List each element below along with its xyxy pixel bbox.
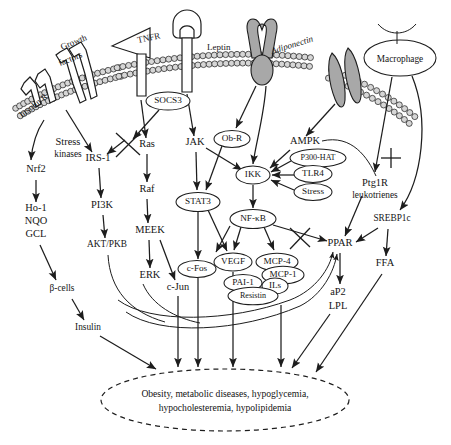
node-ppar[interactable]: PPAR: [327, 237, 352, 248]
node-label-mcp4: MCP-4: [263, 256, 290, 266]
membrane-lipid: [211, 52, 217, 58]
membrane-lipid: [285, 53, 291, 59]
node-label-ikk: IKK: [245, 169, 262, 179]
node-label-ras: Ras: [139, 138, 155, 149]
outcome-line-2: hypocholesteremia, hypolipidemia: [159, 402, 292, 413]
arrow-macrophage-srebp1c: [400, 76, 422, 210]
node-jak[interactable]: JAK: [185, 136, 205, 147]
node-label-srebp1c: SREBP1c: [373, 213, 410, 223]
node-meek[interactable]: MEEK: [135, 224, 165, 235]
node-ffa[interactable]: FFA: [376, 257, 395, 268]
node-label-stress-ox: Stress: [302, 186, 324, 196]
node-pi3k[interactable]: PI3K: [91, 199, 113, 210]
node-label-raf: Raf: [139, 183, 155, 194]
node-ampk[interactable]: AMPK: [290, 135, 321, 146]
node-socs3[interactable]: SOCS3: [146, 92, 190, 110]
arrow-leptin-obr: [236, 86, 256, 128]
ellipse-node-group: SOCS3Ob-RSTAT3IKKP300-HATTLR4StressNF-κB…: [146, 92, 346, 305]
membrane-lipid: [391, 98, 397, 104]
node-ho1[interactable]: Ho-1: [25, 202, 46, 213]
node-ptg1r[interactable]: Ptg1Rleukotrienes: [352, 177, 398, 200]
node-raf[interactable]: Raf: [139, 183, 155, 194]
membrane-lipid: [122, 72, 128, 78]
node-label-nfkb: NF-κB: [240, 213, 266, 223]
node-nqo[interactable]: NQO: [25, 215, 48, 226]
membrane-lipid: [229, 60, 235, 66]
membrane-lipid: [381, 102, 387, 108]
node-label-pi3k: PI3K: [91, 199, 113, 210]
membrane-lipid: [407, 110, 413, 116]
leptin-receptor[interactable]: [173, 10, 201, 92]
node-vegf[interactable]: VEGF: [214, 253, 252, 271]
membrane-lipid: [240, 60, 246, 66]
arrow-nfkb-left: [216, 226, 230, 252]
node-label-aktpkb: AKT/PKB: [87, 239, 127, 249]
node-label-jak: JAK: [185, 136, 205, 147]
node-label-irs1: IRS-1: [86, 152, 111, 163]
node-nrf2[interactable]: Nrf2: [26, 163, 46, 174]
node-srebp1c[interactable]: SREBP1c: [373, 213, 410, 223]
membrane-lipid: [206, 61, 212, 67]
node-label-cfos: c-Fos: [187, 263, 208, 273]
node-aktpkb[interactable]: AKT/PKB: [87, 239, 127, 249]
membrane-lipid: [223, 60, 229, 66]
arrow-meek-cjun: [160, 240, 175, 280]
node-ras[interactable]: Ras: [139, 138, 155, 149]
leptin-label: Leptin: [207, 42, 231, 52]
membrane-lipid: [195, 62, 201, 68]
membrane-lipid: [155, 66, 161, 72]
membrane-lipid: [290, 62, 296, 68]
node-label-nrf2: Nrf2: [26, 163, 46, 174]
macrophage-label: Macrophage: [377, 54, 423, 64]
membrane-lipid: [406, 120, 412, 126]
node-ap2[interactable]: aP2: [330, 286, 346, 297]
node-ikk[interactable]: IKK: [236, 166, 270, 184]
node-label-pai1: PAI-1: [232, 277, 254, 287]
membrane-lipid: [374, 88, 380, 94]
node-obr[interactable]: Ob-R: [214, 131, 250, 148]
arrow-ampk-ikk: [270, 150, 290, 168]
membrane-lipid: [223, 52, 229, 58]
arrow-adipor-ampk: [306, 104, 335, 136]
membrane-lipid: [149, 59, 155, 65]
membrane-lipid: [307, 63, 313, 69]
membrane-lipid: [273, 61, 279, 67]
node-resistin[interactable]: Resistin: [228, 287, 278, 304]
macrophage-cell[interactable]: [364, 24, 436, 76]
node-label2-ptg1r: leukotrienes: [352, 190, 398, 200]
node-tlr4[interactable]: TLR4: [294, 166, 332, 183]
node-lpl[interactable]: LPL: [329, 300, 347, 311]
node-stress-ox[interactable]: Stress: [294, 184, 332, 201]
node-label-ap2: aP2: [330, 286, 346, 297]
membrane-lipid: [295, 62, 301, 68]
node-label-ffa: FFA: [376, 257, 395, 268]
node-nfkb[interactable]: NF-κB: [230, 210, 276, 229]
node-cjun[interactable]: c-Jun: [167, 281, 190, 292]
node-bcells[interactable]: β-cells: [50, 283, 75, 293]
node-label-ho1: Ho-1: [25, 202, 46, 213]
node-label-obr: Ob-R: [222, 133, 243, 143]
node-gcl[interactable]: GCL: [26, 228, 47, 239]
arrow-stat3-vegf: [208, 210, 227, 251]
membrane-lipid: [396, 102, 402, 108]
arrow-ffa-outcome: [316, 274, 382, 372]
node-p300hat[interactable]: P300-HAT: [290, 149, 346, 167]
membrane-lipid: [194, 53, 200, 59]
node-erk[interactable]: ERK: [140, 269, 161, 280]
arrow-jak-ikk: [206, 148, 242, 170]
membrane-lipid: [160, 57, 166, 63]
node-stress-kinases[interactable]: Stresskinases: [54, 136, 82, 159]
node-cfos[interactable]: c-Fos: [178, 261, 216, 278]
node-irs1[interactable]: IRS-1: [86, 152, 111, 163]
node-label-ils: ILs: [269, 280, 282, 290]
membrane-lipid: [201, 62, 207, 68]
membrane-lipid: [301, 63, 307, 69]
node-label-cjun: c-Jun: [167, 281, 190, 292]
node-label-ppar: PPAR: [327, 237, 352, 248]
arrow-jak-stat3: [196, 152, 197, 190]
membrane-lipid: [245, 51, 251, 57]
inhibition-bar-irs1: [116, 133, 140, 157]
membrane-lipid: [296, 54, 302, 60]
node-stat3[interactable]: STAT3: [176, 193, 220, 212]
node-insulin[interactable]: Insulin: [75, 322, 101, 332]
